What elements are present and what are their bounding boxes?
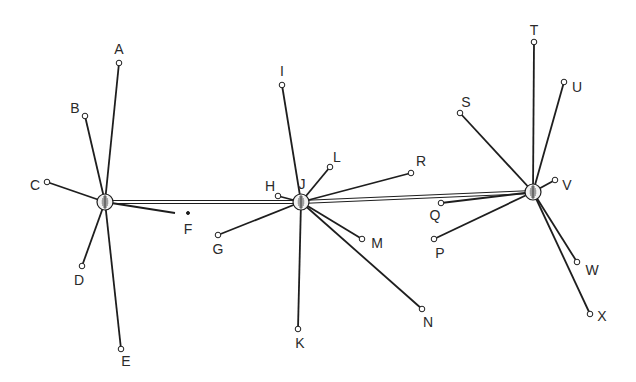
spoke-link [105,63,119,202]
node-label-m: M [371,236,383,250]
node-m [359,236,365,242]
node-e [118,346,124,352]
node-label-p: P [435,246,444,260]
spoke-link [301,202,422,309]
node-label-v: V [562,178,571,192]
spoke-link [82,202,105,266]
node-g [215,232,221,238]
hub-label-j: J [299,177,306,191]
node-label-w: W [585,263,598,277]
node-f [187,212,190,215]
spoke-link [533,42,534,192]
node-n [419,306,425,312]
hub-3 [525,184,541,200]
spoke-link [301,202,362,239]
spoke-link [47,182,105,202]
node-l [327,164,333,170]
spoke-link [533,192,590,314]
node-label-s: S [461,95,470,109]
node-label-a: A [114,42,123,56]
node-label-t: T [530,23,539,37]
node-h [275,193,281,199]
node-a [116,60,122,66]
spoke-link [533,82,564,192]
spoke-link [105,202,121,349]
node-label-b: B [70,101,79,115]
trunk-link [105,201,301,204]
hub-2 [293,194,309,210]
node-label-n: N [423,315,433,329]
node-label-h: H [265,179,275,193]
node-label-i: I [280,64,284,78]
node-label-e: E [121,354,130,368]
node-label-d: D [74,273,84,287]
spoke-link [85,116,105,202]
node-x [587,311,593,317]
node-t [531,39,537,45]
node-label-c: C [30,178,40,192]
node-i [279,82,285,88]
diagram-canvas [0,0,636,382]
spoke-link [434,192,533,239]
node-k [295,326,301,332]
spoke-link [298,202,301,329]
node-label-u: U [572,80,582,94]
node-w [574,259,580,265]
node-label-k: K [295,336,304,350]
node-label-f: F [184,222,193,236]
node-label-r: R [416,154,426,168]
node-q [438,200,444,206]
node-label-l: L [333,150,341,164]
node-c [44,179,50,185]
node-s [457,110,463,116]
node-p [431,236,437,242]
node-label-q: Q [430,208,441,222]
node-u [561,79,567,85]
spoke-link [533,192,577,262]
spoke-link [460,113,533,192]
node-b [82,113,88,119]
node-label-g: G [213,242,224,256]
node-r [408,170,414,176]
hub-1 [97,194,113,210]
spoke-link [218,202,301,235]
node-label-x: X [597,309,606,323]
node-d [79,263,85,269]
node-v [552,177,558,183]
